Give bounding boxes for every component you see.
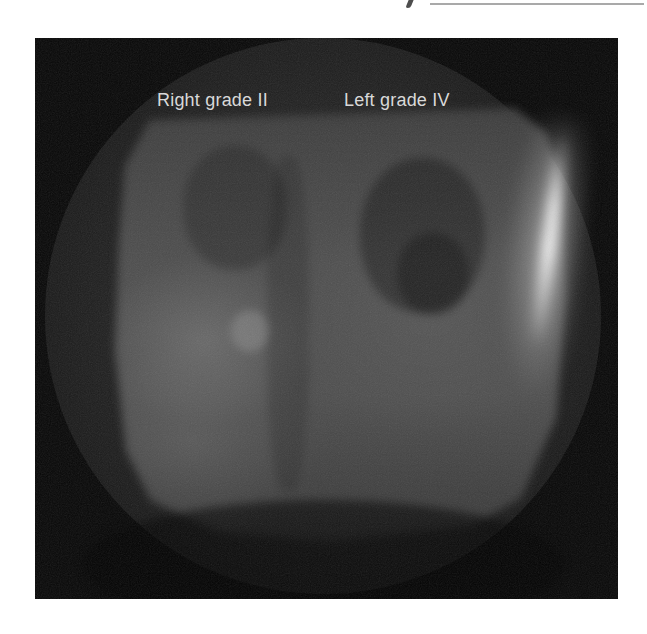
radiograph-figure: Right grade II Left grade IV	[35, 38, 618, 599]
small-bright-spot	[231, 310, 269, 352]
left-kidney-contrast-shadow-core	[397, 233, 469, 315]
xray-field-blur-wrapper	[35, 38, 618, 599]
midline-spine-shadow	[267, 156, 309, 491]
annotation-right-grade: Right grade II	[157, 90, 268, 111]
page-background: Right grade II Left grade IV	[0, 0, 647, 634]
cropped-text-artifact-descender	[405, 0, 413, 8]
annotation-left-grade: Left grade IV	[344, 90, 450, 111]
cropped-text-artifact-underline	[430, 3, 644, 5]
